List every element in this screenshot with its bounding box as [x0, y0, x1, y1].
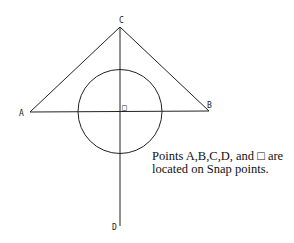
label-point-a: A — [19, 109, 24, 118]
segment-ca — [30, 27, 120, 112]
segment-cb — [120, 27, 209, 111]
label-point-d: D — [112, 223, 117, 232]
caption-line-2: located on Snap points. — [152, 163, 283, 176]
label-point-o: □ — [122, 103, 127, 112]
label-point-c: C — [119, 16, 124, 25]
geometry-diagram: C A B D □ — [0, 0, 294, 243]
label-point-b: B — [207, 101, 212, 110]
caption: Points A,B,C,D, and □ are located on Sna… — [152, 150, 283, 176]
